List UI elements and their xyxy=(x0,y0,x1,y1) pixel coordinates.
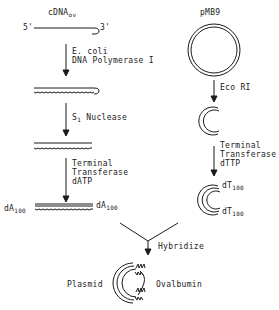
ds-dna xyxy=(34,143,92,149)
cdna-label: cDNAov xyxy=(48,8,76,19)
step-ecoli-line2: DNA Polymerase I xyxy=(72,56,154,65)
three-prime-label: 3' xyxy=(100,23,110,32)
plasmid-name-label: pMB9 xyxy=(200,8,220,17)
step-ecoli-line1: E. coli xyxy=(72,47,108,56)
ds-hairpin xyxy=(34,88,99,94)
arrow-down-icon xyxy=(63,103,69,136)
step-ecori-label: Eco RI xyxy=(220,83,251,92)
tail-left-label: dA100 xyxy=(4,204,26,215)
step-dttp-line1: Terminal xyxy=(220,141,261,150)
hybridize-label: Hybridize xyxy=(158,242,204,251)
step-dttp-line3: dTTP xyxy=(220,159,240,168)
tailed-plasmid xyxy=(198,185,220,215)
step-terminal-line1: Terminal xyxy=(72,159,113,168)
plasmid-label: Plasmid xyxy=(67,280,103,289)
arrow-down-icon xyxy=(211,146,217,176)
cdna-strand xyxy=(34,28,99,34)
five-prime-label: 5' xyxy=(23,23,33,32)
tail-top-label: dT100 xyxy=(222,181,244,192)
step-terminal-line3: dATP xyxy=(72,177,92,186)
hybrid-plasmid xyxy=(113,263,145,303)
tailed-dna xyxy=(35,204,93,210)
step-s1-nuclease: S1 Nuclease xyxy=(72,113,127,124)
step-dttp-line2: Transferase xyxy=(220,150,276,159)
step-terminal-line2: Transferase xyxy=(72,168,128,177)
ovalbumin-label: Ovalbumin xyxy=(156,280,202,289)
arrow-down-icon xyxy=(63,158,69,202)
linear-plasmid xyxy=(199,107,219,135)
arrow-down-icon xyxy=(63,44,69,76)
tail-bottom-label: dT100 xyxy=(222,207,244,218)
plasmid-circle xyxy=(188,24,240,76)
tail-right-label: dA100 xyxy=(96,201,118,212)
arrow-down-icon xyxy=(211,80,217,102)
